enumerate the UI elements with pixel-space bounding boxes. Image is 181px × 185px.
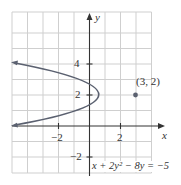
vertex-label: (3, 2) — [136, 76, 160, 87]
grid — [12, 12, 152, 173]
parabola-plot — [0, 0, 181, 185]
vertex-dot — [133, 93, 138, 98]
tick-label-x-neg2: −2 — [51, 132, 63, 143]
x-axis-label: x — [162, 130, 167, 141]
y-axis-label: y — [95, 12, 100, 23]
y-axis — [87, 13, 93, 176]
tick-label-x-2: 2 — [117, 132, 123, 143]
tick-label-y-neg2: −2 — [70, 151, 82, 162]
tick-label-y-4: 4 — [74, 58, 80, 69]
x-axis — [12, 123, 165, 129]
equation-label: x + 2y² − 8y = −5 — [92, 161, 169, 172]
tick-label-y-2: 2 — [75, 89, 81, 100]
